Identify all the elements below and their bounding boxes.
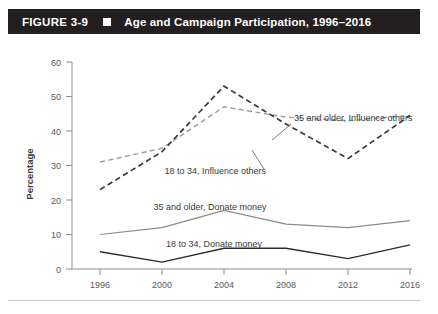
series-annotation-18-34-donate: 18 to 34, Donate money (166, 239, 263, 249)
x-tick-label: 2016 (400, 280, 420, 290)
y-tick-label: 60 (51, 58, 61, 68)
y-tick-label: 20 (51, 196, 61, 206)
series-annotation-35-older-influence: 35 and older, Influence others (294, 113, 413, 123)
chart-plot-area: 60 50 40 30 20 10 0 Percentage 1 (0, 34, 438, 296)
x-tick-label: 2004 (214, 280, 234, 290)
x-tick-label: 2012 (338, 280, 358, 290)
x-axis-ticks (100, 269, 410, 275)
series-line-35-older-donate (100, 210, 410, 234)
x-tick-label: 1996 (90, 280, 110, 290)
series-annotation-18-34-influence: 18 to 34, Influence others (164, 166, 266, 176)
x-axis-tick-labels: 1996 2000 2004 2008 2012 2016 (90, 280, 420, 290)
footer-divider (8, 300, 420, 301)
figure-container: FIGURE 3-9 Age and Campaign Participatio… (0, 0, 438, 314)
y-axis-title: Percentage (24, 148, 35, 199)
figure-title-label: Age and Campaign Participation, 1996–201… (124, 16, 371, 28)
y-tick-label: 30 (51, 161, 61, 171)
y-tick-label: 10 (51, 230, 61, 240)
y-tick-label: 0 (56, 265, 61, 275)
leader-line-35-older-influence (272, 124, 291, 140)
square-bullet-icon (103, 18, 111, 26)
y-tick-label: 50 (51, 92, 61, 102)
y-axis-tick-labels: 60 50 40 30 20 10 0 (51, 58, 61, 275)
x-tick-label: 2000 (152, 280, 172, 290)
line-chart-svg: 60 50 40 30 20 10 0 Percentage 1 (0, 34, 438, 296)
figure-title-bar: FIGURE 3-9 Age and Campaign Participatio… (8, 9, 420, 34)
x-tick-label: 2008 (276, 280, 296, 290)
series-annotation-35-older-donate: 35 and older, Donate money (153, 202, 267, 212)
y-tick-label: 40 (51, 127, 61, 137)
source-note (8, 306, 420, 314)
figure-number-label: FIGURE 3-9 (22, 16, 88, 28)
y-axis-ticks (66, 62, 72, 269)
